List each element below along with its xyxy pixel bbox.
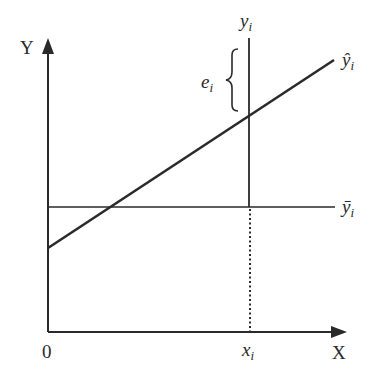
residual-label: ei [201,71,213,95]
residual-brace [226,49,238,111]
mean-label: ȳi [340,196,354,220]
x-axis-arrow-icon [331,326,347,338]
x-i-label: xi [241,339,254,363]
regression-diagram: Y X 0 xi yi ŷi ȳi ei [0,0,378,383]
regression-label: ŷi [340,49,354,73]
origin-label: 0 [42,341,52,362]
y-axis-label: Y [20,37,34,58]
y-i-label: yi [238,10,252,34]
regression-line [48,60,334,248]
y-axis-arrow-icon [42,38,54,54]
x-axis-label: X [332,342,346,363]
